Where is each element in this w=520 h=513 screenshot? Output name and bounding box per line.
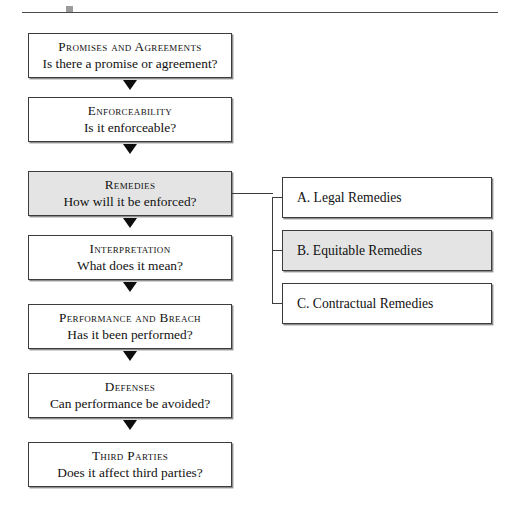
branch-box-label: C. Contractual Remedies — [283, 296, 433, 312]
arrow-down-icon-4 — [123, 282, 137, 292]
flow-box-question: Can performance be avoided? — [50, 396, 210, 412]
flow-box-question: Does it affect third parties? — [57, 465, 203, 481]
flow-box-title: Remedies — [105, 177, 156, 193]
arrow-down-icon-3 — [123, 218, 137, 228]
branch-box-legal-remedies[interactable]: A. Legal Remedies — [282, 177, 492, 218]
branch-box-contractual-remedies[interactable]: C. Contractual Remedies — [282, 283, 492, 324]
flow-box-question: What does it mean? — [77, 258, 183, 274]
page-header-speck-artifact — [66, 6, 73, 12]
flow-box-performance-and-breach[interactable]: Performance and Breach Has it been perfo… — [28, 304, 232, 349]
flow-box-interpretation[interactable]: Interpretation What does it mean? — [28, 235, 232, 280]
flow-box-question: Is it enforceable? — [84, 120, 176, 136]
flow-box-remedies[interactable]: Remedies How will it be enforced? — [28, 171, 232, 216]
flow-box-promises-and-agreements[interactable]: Promises and Agreements Is there a promi… — [28, 33, 232, 78]
flow-box-third-parties[interactable]: Third Parties Does it affect third parti… — [28, 442, 232, 487]
page-header-rule — [22, 12, 498, 13]
connector-stem-remedies — [232, 193, 273, 194]
branch-box-label: A. Legal Remedies — [283, 190, 402, 206]
branch-box-label: B. Equitable Remedies — [283, 243, 422, 259]
flow-box-title: Performance and Breach — [59, 310, 201, 326]
branch-box-equitable-remedies[interactable]: B. Equitable Remedies — [282, 230, 492, 271]
flow-box-question: Has it been performed? — [67, 327, 192, 343]
flow-box-title: Third Parties — [92, 448, 168, 464]
flow-box-enforceability[interactable]: Enforceability Is it enforceable? — [28, 97, 232, 142]
flow-box-title: Promises and Agreements — [58, 39, 201, 55]
arrow-down-icon-6 — [123, 420, 137, 430]
flow-box-title: Enforceability — [88, 103, 172, 119]
flow-box-question: How will it be enforced? — [63, 194, 196, 210]
flowchart-page: Promises and Agreements Is there a promi… — [0, 0, 520, 513]
flow-box-defenses[interactable]: Defenses Can performance be avoided? — [28, 373, 232, 418]
flow-box-question: Is there a promise or agreement? — [42, 56, 217, 72]
flow-box-title: Defenses — [105, 379, 155, 395]
arrow-down-icon-1 — [123, 80, 137, 90]
flow-box-title: Interpretation — [89, 241, 170, 257]
arrow-down-icon-5 — [123, 351, 137, 361]
arrow-down-icon-2 — [123, 144, 137, 154]
